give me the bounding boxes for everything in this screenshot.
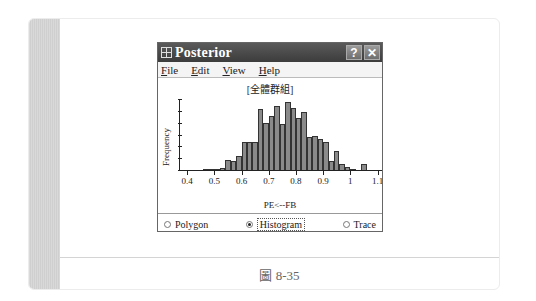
- x-axis: [179, 170, 383, 171]
- menu-edit[interactable]: Edit: [191, 64, 209, 76]
- caption-divider: [60, 257, 499, 258]
- x-axis-label: PE<--FB: [158, 200, 382, 210]
- x-tick: [323, 171, 324, 175]
- x-tick: [350, 171, 351, 175]
- x-tick: [269, 171, 270, 175]
- x-tick-label: 1: [348, 176, 353, 186]
- menu-file[interactable]: File: [161, 64, 178, 76]
- plot-area: 0.40.50.60.70.80.911.1: [179, 99, 383, 171]
- x-tick: [378, 171, 379, 175]
- radio-label: Trace: [354, 219, 376, 230]
- figure-caption: 圖 8-35: [60, 265, 499, 284]
- radio-button-icon[interactable]: [164, 221, 171, 228]
- x-tick: [214, 171, 215, 175]
- histogram-chart: [全體群組] Frequency 0.40.50.60.70.80.911.1 …: [158, 78, 382, 214]
- radio-histogram[interactable]: Histogram: [246, 218, 305, 231]
- chart-title: [全體群組]: [158, 81, 382, 96]
- y-tick: [178, 99, 182, 100]
- radio-trace[interactable]: Trace: [343, 219, 376, 230]
- x-tick-label: 0.5: [209, 176, 220, 186]
- x-tick: [296, 171, 297, 175]
- x-tick-label: 0.7: [263, 176, 274, 186]
- help-button[interactable]: ?: [346, 45, 362, 60]
- y-tick: [178, 170, 182, 171]
- menu-bar: FileEditViewHelp: [158, 62, 382, 78]
- radio-polygon[interactable]: Polygon: [164, 219, 208, 230]
- radio-label: Polygon: [175, 219, 208, 230]
- histogram-bar: [350, 169, 355, 170]
- window-app-icon: [161, 47, 172, 58]
- x-tick-label: 0.8: [290, 176, 301, 186]
- posterior-window: Posterior ? ✕ FileEditViewHelp [全體群組] Fr…: [157, 42, 383, 232]
- title-bar[interactable]: Posterior ? ✕: [158, 43, 382, 62]
- y-tick: [178, 146, 182, 147]
- close-button[interactable]: ✕: [364, 45, 380, 60]
- y-tick: [178, 158, 182, 159]
- chart-type-radio-group: PolygonHistogramTrace: [158, 214, 382, 232]
- radio-button-icon[interactable]: [246, 221, 253, 228]
- window-title: Posterior: [175, 45, 346, 61]
- radio-button-icon[interactable]: [343, 221, 350, 228]
- x-tick: [242, 171, 243, 175]
- y-tick: [178, 135, 182, 136]
- x-tick-label: 1.1: [372, 176, 383, 186]
- y-axis-label: Frequency: [161, 128, 171, 166]
- x-tick-label: 0.6: [236, 176, 247, 186]
- x-tick-label: 0.9: [318, 176, 329, 186]
- y-tick: [178, 123, 182, 124]
- histogram-bar: [361, 164, 366, 170]
- x-tick: [187, 171, 188, 175]
- y-tick: [178, 111, 182, 112]
- radio-label: Histogram: [257, 218, 305, 231]
- menu-view[interactable]: View: [222, 64, 245, 76]
- x-tick-label: 0.4: [182, 176, 193, 186]
- page-edge-strip: [29, 19, 60, 289]
- menu-help[interactable]: Help: [259, 64, 280, 76]
